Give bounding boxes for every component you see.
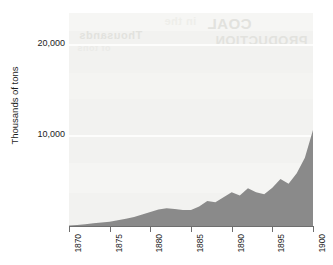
plot-area: COAL PRODUCTION Thousands of tons in the <box>69 13 313 226</box>
x-axis-tick-label: 1880 <box>154 234 164 253</box>
area-series-path <box>69 130 313 226</box>
y-axis-tick-label: 10,000 <box>37 129 65 139</box>
x-axis-tick-label: 1895 <box>276 234 286 253</box>
x-axis-tick-label: 1870 <box>73 234 83 253</box>
x-axis-tick <box>313 227 314 232</box>
chart-figure: COAL PRODUCTION Thousands of tons in the… <box>0 0 333 265</box>
y-axis-title: Thousands of tons <box>9 56 20 156</box>
x-axis-tick <box>150 227 151 232</box>
x-axis-tick <box>232 227 233 232</box>
x-axis-tick <box>110 227 111 232</box>
x-axis-tick-label: 1875 <box>114 234 124 253</box>
x-axis-tick-label: 1885 <box>195 234 205 253</box>
x-axis-tick-label: 1890 <box>236 234 246 253</box>
x-axis-tick-label: 1900 <box>317 234 327 253</box>
x-axis-tick <box>69 227 70 232</box>
x-axis-tick <box>272 227 273 232</box>
x-axis-tick <box>191 227 192 232</box>
area-series <box>69 13 313 226</box>
y-axis-tick-label: 20,000 <box>37 38 65 48</box>
